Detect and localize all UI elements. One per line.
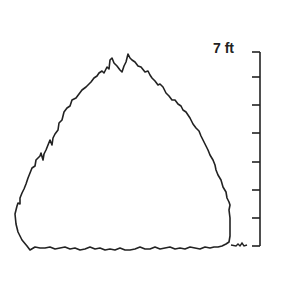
cross-section-outline xyxy=(15,54,230,250)
ground-squiggle xyxy=(231,243,247,246)
scale-label: 7 ft xyxy=(213,40,234,56)
height-scale-bar xyxy=(252,52,260,246)
profile-diagram xyxy=(0,0,291,281)
